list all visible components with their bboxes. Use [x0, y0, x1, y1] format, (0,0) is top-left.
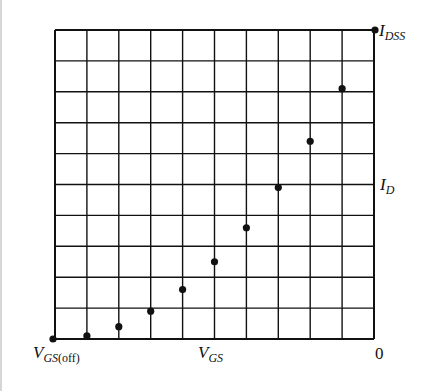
- data-point: [211, 258, 218, 265]
- vgs-axis-label: VGS: [198, 344, 223, 364]
- transfer-characteristic-plot: [0, 0, 433, 391]
- data-point: [371, 26, 378, 33]
- data-point: [49, 335, 56, 342]
- data-point: [275, 184, 282, 191]
- id-axis-label: ID: [380, 176, 394, 196]
- idss-label: IDSS: [379, 22, 405, 42]
- data-point: [339, 85, 346, 92]
- grid: [55, 30, 374, 339]
- data-point: [307, 138, 314, 145]
- vgs-off-label: VGS(off): [33, 344, 80, 364]
- data-point: [83, 332, 90, 339]
- zero-label: 0: [375, 345, 384, 362]
- data-point: [179, 286, 186, 293]
- data-point: [243, 224, 250, 231]
- data-point: [147, 308, 154, 315]
- data-point: [115, 323, 122, 330]
